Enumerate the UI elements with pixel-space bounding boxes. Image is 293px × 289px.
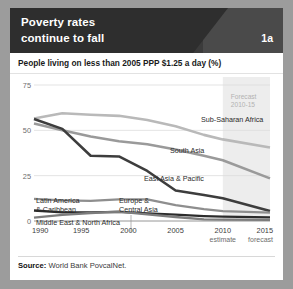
y-tick-label: 50	[23, 126, 31, 135]
series-label: Europe &	[119, 196, 149, 205]
y-tick-label: 25	[23, 172, 31, 181]
page-title: Poverty rates continue to fall	[21, 14, 104, 46]
figure-body: People living on less than 2005 PPP $1.2…	[10, 53, 283, 280]
x-tick-sublabel: forecast	[248, 236, 273, 243]
line-chart: 0255075 Sub-Saharan AfricaSouth AsiaEast…	[18, 75, 276, 250]
figure-panel: Poverty rates continue to fall 1a People…	[10, 8, 283, 280]
x-tick-sublabel: estimate	[210, 236, 237, 243]
figure-header: Poverty rates continue to fall 1a	[10, 8, 283, 53]
x-tick-label: 2000	[120, 226, 136, 235]
y-axis-tick-labels: 0255075	[23, 81, 31, 226]
x-tick-label: 2015	[257, 226, 273, 235]
x-tick-label: 1995	[73, 226, 89, 235]
header-divider	[10, 73, 283, 74]
chart-plot-area: 0255075 Sub-Saharan AfricaSouth AsiaEast…	[18, 75, 276, 250]
source-label: Source:	[18, 261, 46, 270]
series-label: East Asia & Pacific	[144, 174, 204, 183]
chart-subtitle-text: People living on less than 2005 PPP $1.2…	[18, 58, 221, 68]
y-tick-label: 0	[27, 217, 31, 226]
source-divider	[18, 256, 275, 257]
series-label: Sub-Saharan Africa	[201, 115, 263, 124]
series-label: Latin America	[36, 196, 80, 205]
forecast-annotation: Forecast2010-15	[231, 93, 257, 108]
title-line-1: Poverty rates	[21, 14, 104, 30]
x-tick-label: 2005	[167, 226, 183, 235]
forecast-annotation-line: Forecast	[231, 93, 257, 100]
x-tick-label: 1990	[32, 226, 48, 235]
x-axis: 19901995200020052010estimate2015forecast	[32, 226, 273, 243]
title-line-2: continue to fall	[21, 30, 104, 46]
source-note: Source: World Bank PovcalNet.	[18, 261, 126, 270]
series-label: South Asia	[170, 146, 204, 155]
chart-subtitle: People living on less than 2005 PPP $1.2…	[18, 58, 221, 68]
forecast-annotation-line: 2010-15	[231, 101, 256, 108]
y-tick-label: 75	[23, 81, 31, 90]
series-label: & Caribbean	[36, 205, 76, 214]
series-label: Central Asia	[119, 205, 158, 214]
source-text: World Bank PovcalNet.	[48, 261, 126, 270]
x-tick-label: 2010	[215, 226, 231, 235]
figure-number-badge: 1a	[261, 32, 273, 44]
